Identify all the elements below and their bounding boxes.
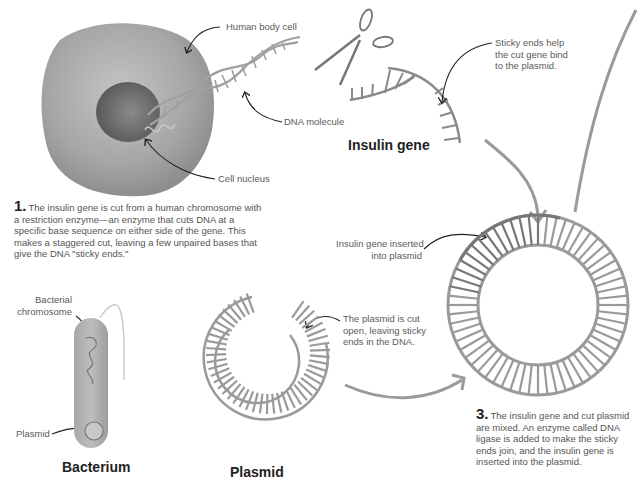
insulin-gene-illustration <box>350 68 460 143</box>
title-insulin-gene: Insulin gene <box>348 137 430 153</box>
step-3-description: 3.The insulin gene and cut plasmid are m… <box>476 408 641 468</box>
title-plasmid: Plasmid <box>230 464 284 480</box>
step-1-description: 1.The insulin gene is cut from a human c… <box>14 200 264 260</box>
label-human-body-cell: Human body cell <box>226 21 297 33</box>
scissors-icon <box>315 8 394 85</box>
label-bacterial-chromosome: Bacterial chromosome <box>14 294 72 317</box>
step-1-number: 1. <box>14 197 27 214</box>
label-dna-molecule: DNA molecule <box>284 116 344 128</box>
label-sticky-ends-help: Sticky ends help the cut gene bind to th… <box>495 37 568 72</box>
cut-plasmid-illustration <box>204 294 330 420</box>
recombinant-plasmid-illustration <box>448 215 628 395</box>
label-cell-nucleus: Cell nucleus <box>218 173 270 185</box>
label-plasmid-in-bacterium: Plasmid <box>16 428 50 440</box>
bacterium-illustration <box>74 305 124 448</box>
title-bacterium: Bacterium <box>62 459 130 475</box>
step-3-number: 3. <box>476 405 489 422</box>
label-insulin-gene-inserted: Insulin gene inserted into plasmid <box>336 238 422 261</box>
label-plasmid-cut-open: The plasmid is cut open, leaving sticky … <box>343 313 426 348</box>
